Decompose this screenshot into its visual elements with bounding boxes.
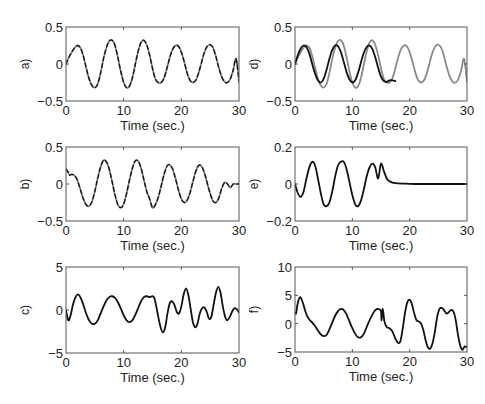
axes-frame	[295, 27, 467, 101]
plot-lines	[66, 40, 239, 88]
x-tick-label: 10	[345, 223, 359, 238]
x-tick-label: 10	[116, 103, 130, 118]
y-tick-label: −5	[48, 346, 63, 361]
series-line-0	[66, 287, 239, 333]
x-tick-label: 20	[174, 223, 188, 238]
plot-lines	[295, 161, 467, 206]
series-line-0	[295, 161, 467, 206]
y-tick-label: 0.2	[274, 140, 292, 155]
figure: 0102030−0.500.5Time (sec.)a)0102030−0.50…	[0, 0, 485, 404]
y-tick-label: 0.5	[274, 20, 292, 35]
panel-label: b)	[18, 179, 32, 190]
x-tick-label: 10	[116, 355, 130, 370]
subplots-container: 0102030−0.500.5Time (sec.)a)0102030−0.50…	[18, 20, 474, 385]
series-line-0	[295, 297, 467, 349]
x-tick-label: 0	[62, 223, 69, 238]
x-tick-label: 0	[291, 223, 298, 238]
y-tick-label: 0	[285, 57, 292, 72]
x-tick-label: 10	[345, 354, 359, 369]
y-tick-label: −0.5	[37, 94, 63, 109]
x-tick-label: 20	[174, 355, 188, 370]
y-tick-label: 0	[285, 177, 292, 192]
y-tick-label: 0	[56, 57, 63, 72]
series-line-0	[295, 40, 467, 88]
x-tick-label: 30	[460, 354, 474, 369]
x-tick-label: 30	[460, 103, 474, 118]
series-line-1	[66, 40, 239, 88]
x-tick-label: 30	[232, 103, 246, 118]
subplot-e: 0102030−0.200.2Time (sec.)e)	[247, 140, 474, 253]
y-tick-label: 5	[56, 260, 63, 275]
x-axis-label: Time (sec.)	[349, 369, 414, 384]
x-tick-label: 30	[232, 223, 246, 238]
y-tick-label: 0.5	[45, 20, 63, 35]
y-tick-label: 0	[285, 317, 292, 332]
x-axis-label: Time (sec.)	[120, 238, 185, 253]
x-axis-label: Time (sec.)	[349, 238, 414, 253]
y-tick-label: 5	[285, 288, 292, 303]
x-tick-label: 10	[345, 103, 359, 118]
y-tick-label: −5	[277, 345, 292, 360]
x-tick-label: 20	[402, 354, 416, 369]
y-tick-label: 0	[56, 177, 63, 192]
y-tick-label: 0.5	[45, 140, 63, 155]
x-axis-label: Time (sec.)	[120, 118, 185, 133]
plot-lines	[295, 297, 467, 349]
panel-label: f)	[247, 306, 261, 313]
panel-label: d)	[247, 59, 261, 70]
x-tick-label: 0	[291, 354, 298, 369]
axes-frame	[66, 147, 239, 221]
panel-label: e)	[247, 179, 261, 190]
y-tick-label: 0	[56, 303, 63, 318]
y-tick-label: −0.5	[37, 214, 63, 229]
x-tick-label: 30	[460, 223, 474, 238]
x-axis-label: Time (sec.)	[349, 118, 414, 133]
plot-lines	[66, 287, 239, 333]
x-tick-label: 20	[402, 103, 416, 118]
subplot-a: 0102030−0.500.5Time (sec.)a)	[18, 20, 246, 133]
x-tick-label: 0	[62, 103, 69, 118]
x-tick-label: 20	[174, 103, 188, 118]
x-tick-label: 20	[402, 223, 416, 238]
subplot-f: 0102030−50510Time (sec.)f)	[247, 260, 474, 384]
plot-lines	[295, 40, 467, 88]
subplot-d: 0102030−0.500.5Time (sec.)d)	[247, 20, 474, 133]
x-tick-label: 0	[62, 355, 69, 370]
x-tick-label: 0	[291, 103, 298, 118]
subplot-b: 0102030−0.500.5Time (sec.)b)	[18, 140, 246, 253]
axes-frame	[66, 27, 239, 101]
x-tick-label: 30	[232, 355, 246, 370]
subplot-c: 0102030−505Time (sec.)c)	[18, 260, 246, 385]
y-tick-label: −0.2	[266, 214, 292, 229]
y-tick-label: −0.5	[266, 94, 292, 109]
plot-lines	[66, 160, 239, 208]
panel-label: c)	[18, 305, 32, 315]
panel-label: a)	[18, 59, 32, 70]
x-tick-label: 10	[116, 223, 130, 238]
x-axis-label: Time (sec.)	[120, 370, 185, 385]
y-tick-label: 10	[278, 260, 292, 275]
